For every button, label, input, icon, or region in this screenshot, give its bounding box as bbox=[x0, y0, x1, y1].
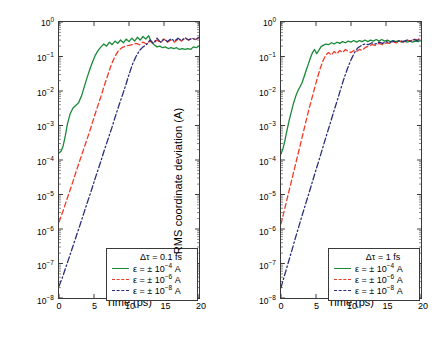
legend-left: Δτ = 0.1 fs ε = ± 10−4 A ε = ± 10−6 A ε … bbox=[106, 248, 198, 301]
y-tick-label: 100 bbox=[263, 17, 276, 27]
legend-line-sample-solid bbox=[334, 268, 351, 269]
y-tick-label: 10−6 bbox=[37, 225, 54, 235]
y-tick-label: 10−8 bbox=[37, 295, 54, 305]
legend-line-sample-solid bbox=[112, 268, 129, 269]
legend-entry-green-right: ε = ± 10−4 A bbox=[334, 263, 414, 274]
y-tick-label: 10−6 bbox=[259, 225, 276, 235]
series-line bbox=[281, 37, 421, 224]
y-tick-label: 10−1 bbox=[37, 52, 54, 62]
legend-line-sample-dashed bbox=[334, 279, 351, 280]
legend-line-sample-dashdot bbox=[334, 290, 351, 291]
y-tick-label: 10−1 bbox=[259, 52, 276, 62]
y-tick-label: 10−5 bbox=[259, 191, 276, 201]
legend-line-sample-dashdot bbox=[112, 290, 129, 291]
y-tick-label: 10−7 bbox=[259, 260, 276, 270]
figure-container: 10010−110−210−310−410−510−610−710−805101… bbox=[0, 0, 445, 362]
y-tick-label: 10−4 bbox=[37, 156, 54, 166]
y-tick-label: 10−5 bbox=[37, 191, 54, 201]
panel-right: 10010−110−210−310−410−510−610−710−805101… bbox=[222, 0, 444, 362]
y-tick-label: 10−2 bbox=[259, 86, 276, 96]
y-tick-label: 10−8 bbox=[259, 295, 276, 305]
y-tick-label: 10−3 bbox=[37, 121, 54, 131]
y-tick-label: 10−7 bbox=[37, 260, 54, 270]
legend-entry-blue-right: ε = ± 10−8 A bbox=[334, 285, 414, 296]
y-tick-label: 10−2 bbox=[37, 86, 54, 96]
y-tick-label: 10−4 bbox=[259, 156, 276, 166]
legend-title-right: Δτ = 1 fs bbox=[334, 252, 414, 262]
legend-label-blue-right: ε = ± 10−8 A bbox=[355, 285, 403, 296]
y-tick-label: 10−3 bbox=[259, 121, 276, 131]
y-axis-label-right: RMS coordinate deviation (A) bbox=[172, 42, 184, 320]
legend-entry-red-right: ε = ± 10−6 A bbox=[334, 274, 414, 285]
legend-label-red-right: ε = ± 10−6 A bbox=[355, 274, 403, 285]
y-tick-label: 100 bbox=[41, 17, 54, 27]
panel-left: 10010−110−210−310−410−510−610−710−805101… bbox=[0, 0, 222, 362]
legend-right: Δτ = 1 fs ε = ± 10−4 A ε = ± 10−6 A ε = … bbox=[328, 248, 420, 301]
legend-label-green-right: ε = ± 10−4 A bbox=[355, 263, 403, 274]
legend-line-sample-dashed bbox=[112, 279, 129, 280]
